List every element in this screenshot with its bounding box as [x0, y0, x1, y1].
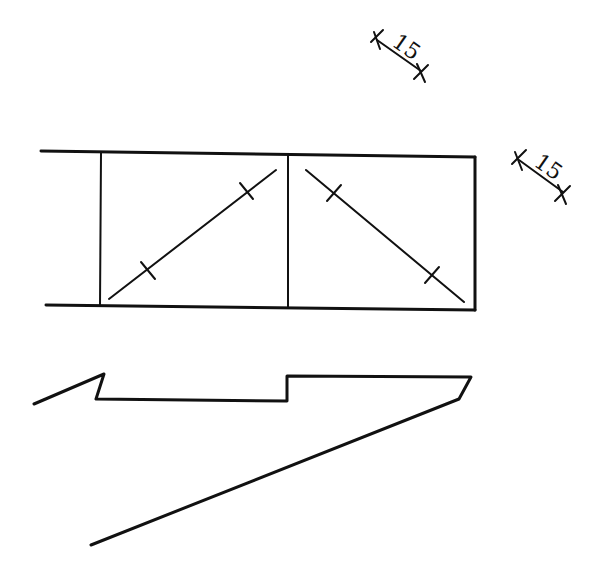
dimension-label-right: 15 [530, 149, 567, 186]
diagonal-brace-right [306, 170, 464, 302]
dimension-marker-right: 15 [512, 149, 570, 204]
diagonal-brace-left [109, 170, 276, 299]
dimension-label-top: 15 [388, 29, 425, 66]
stepped-profile [34, 374, 471, 545]
drawing-canvas: 15 15 [0, 0, 610, 583]
braced-frame [41, 151, 475, 310]
dimension-marker-top: 15 [371, 29, 428, 82]
